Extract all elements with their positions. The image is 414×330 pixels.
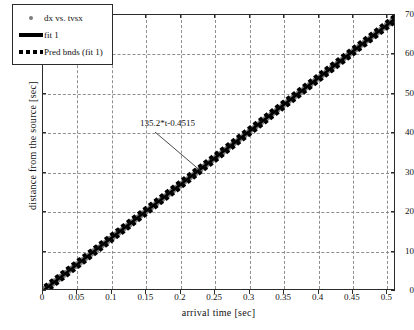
data-point-marker bbox=[269, 111, 275, 117]
data-point-marker bbox=[44, 284, 50, 289]
data-point-marker bbox=[228, 143, 234, 149]
data-point-marker bbox=[96, 244, 102, 250]
data-point-marker bbox=[47, 282, 53, 288]
x-tick-mark bbox=[318, 290, 319, 294]
gridline-horizontal bbox=[43, 133, 394, 134]
legend-label-data: dx vs. tvsx bbox=[44, 13, 83, 23]
x-tick-mark-top bbox=[386, 14, 387, 18]
gridline-vertical bbox=[353, 15, 354, 289]
legend-item-fit: fit 1 bbox=[18, 26, 107, 43]
data-point-marker bbox=[362, 39, 368, 45]
data-point-marker bbox=[206, 160, 212, 166]
data-point-marker bbox=[288, 96, 294, 102]
gridline-horizontal bbox=[43, 212, 394, 213]
data-point-marker bbox=[50, 280, 56, 286]
x-tick-mark bbox=[214, 290, 215, 294]
data-point-marker bbox=[332, 62, 338, 68]
data-point-marker bbox=[367, 35, 373, 41]
data-point-marker bbox=[165, 192, 171, 198]
data-point-marker bbox=[80, 257, 86, 263]
legend-item-pred-bnds: Pred bnds (fit 1) bbox=[18, 43, 107, 60]
y-tick-mark-right bbox=[391, 132, 395, 133]
data-point-marker bbox=[266, 113, 272, 119]
data-point-marker bbox=[43, 286, 47, 289]
gridline-vertical bbox=[215, 15, 216, 289]
data-point-marker bbox=[304, 84, 310, 90]
data-point-marker bbox=[351, 48, 357, 54]
data-point-marker bbox=[52, 278, 58, 284]
legend-label-fit: fit 1 bbox=[44, 30, 59, 40]
data-point-marker bbox=[134, 215, 140, 221]
data-point-marker bbox=[121, 225, 127, 231]
data-point-marker bbox=[291, 94, 297, 100]
y-tick-mark-right bbox=[391, 290, 395, 291]
gridline-vertical bbox=[181, 15, 182, 289]
data-point-marker bbox=[137, 213, 143, 219]
y-tick-mark-right bbox=[391, 93, 395, 94]
x-tick-mark-top bbox=[318, 14, 319, 18]
data-point-marker bbox=[230, 141, 236, 147]
data-point-marker bbox=[219, 149, 225, 155]
x-tick-mark bbox=[386, 290, 387, 294]
data-point-marker bbox=[274, 107, 280, 113]
solid-line-icon bbox=[18, 29, 44, 41]
data-point-marker bbox=[271, 109, 277, 115]
data-point-marker bbox=[115, 230, 121, 236]
data-point-marker bbox=[378, 26, 384, 32]
data-point-marker bbox=[82, 255, 88, 261]
data-point-marker bbox=[323, 69, 329, 75]
data-point-marker bbox=[239, 134, 245, 140]
data-point-marker bbox=[118, 228, 124, 234]
legend: dx vs. tvsx fit 1 Pred bnds (fit 1) bbox=[12, 4, 113, 65]
data-point-marker bbox=[321, 71, 327, 77]
data-point-marker bbox=[129, 219, 135, 225]
x-tick-mark-top bbox=[145, 14, 146, 18]
data-point-marker bbox=[365, 37, 371, 43]
data-point-marker bbox=[260, 117, 266, 123]
data-point-marker bbox=[337, 58, 343, 64]
data-point-marker bbox=[310, 79, 316, 85]
data-point-marker bbox=[381, 24, 387, 30]
fit-equation-annotation: 135.2*t-0.4515 bbox=[140, 118, 195, 128]
x-tick-mark bbox=[42, 290, 43, 294]
data-point-marker bbox=[258, 120, 264, 126]
x-tick-label: 0.5 bbox=[364, 293, 408, 302]
data-point-marker bbox=[151, 202, 157, 208]
y-tick-mark-right bbox=[391, 211, 395, 212]
y-tick-label: 20 bbox=[376, 207, 414, 216]
data-point-marker bbox=[85, 253, 91, 259]
x-tick-mark bbox=[76, 290, 77, 294]
x-tick-mark-top bbox=[214, 14, 215, 18]
data-point-marker bbox=[197, 166, 203, 172]
data-point-marker bbox=[58, 274, 64, 280]
y-tick-mark bbox=[42, 93, 46, 94]
y-tick-mark bbox=[42, 211, 46, 212]
data-point-marker bbox=[184, 177, 190, 183]
x-tick-mark bbox=[111, 290, 112, 294]
data-point-marker bbox=[123, 223, 129, 229]
gridline-vertical bbox=[284, 15, 285, 289]
data-point-marker bbox=[69, 266, 75, 272]
y-tick-label: 30 bbox=[376, 168, 414, 177]
figure-chart: distance from the source [sec] 010203040… bbox=[0, 0, 414, 330]
data-point-marker bbox=[277, 105, 283, 111]
data-point-marker bbox=[302, 86, 308, 92]
data-point-marker bbox=[373, 31, 379, 37]
x-tick-mark-top bbox=[352, 14, 353, 18]
data-point-marker bbox=[60, 272, 66, 278]
data-point-marker bbox=[263, 115, 269, 121]
data-point-marker bbox=[208, 158, 214, 164]
data-point-marker bbox=[203, 162, 209, 168]
data-point-marker bbox=[307, 82, 313, 88]
data-point-marker bbox=[354, 46, 360, 52]
data-point-marker bbox=[186, 174, 192, 180]
x-tick-mark-top bbox=[283, 14, 284, 18]
x-tick-mark bbox=[249, 290, 250, 294]
gridline-horizontal bbox=[43, 252, 394, 253]
data-point-marker bbox=[126, 221, 132, 227]
x-tick-mark bbox=[145, 290, 146, 294]
data-point-marker bbox=[173, 185, 179, 191]
y-tick-mark-right bbox=[391, 53, 395, 54]
scatter-marker-icon bbox=[18, 12, 44, 24]
gridline-vertical bbox=[250, 15, 251, 289]
